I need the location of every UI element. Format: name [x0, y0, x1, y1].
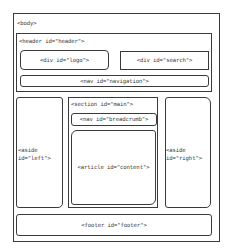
logo-label: <div id="logo">: [40, 57, 89, 64]
search-box: <div id="search">: [120, 51, 209, 70]
aside-right-label-line1: <aside: [166, 147, 186, 154]
breadcrumb-label: <nav id="breadcrumb">: [80, 116, 149, 123]
header-label: <header id="header">: [19, 38, 84, 45]
aside-left-label-line2: id="left">: [18, 155, 51, 162]
aside-left-label-line1: <aside: [18, 147, 38, 154]
footer-label: <footer id="footer">: [81, 222, 146, 229]
section-main-label: <section id="main">: [71, 101, 133, 108]
body-label: <body>: [17, 20, 37, 27]
search-label: <div id="search">: [137, 57, 193, 64]
navigation-label: <nav id="navigation">: [80, 78, 149, 85]
aside-right-label-line2: id="right">: [166, 155, 202, 162]
logo-box: <div id="logo">: [20, 50, 109, 70]
navigation-box: <nav id="navigation">: [20, 75, 209, 87]
footer-box: <footer id="footer">: [16, 214, 212, 236]
article-content-label: <article id="content">: [78, 164, 150, 171]
article-content-box: <article id="content">: [71, 130, 156, 205]
breadcrumb-box: <nav id="breadcrumb">: [71, 113, 157, 126]
